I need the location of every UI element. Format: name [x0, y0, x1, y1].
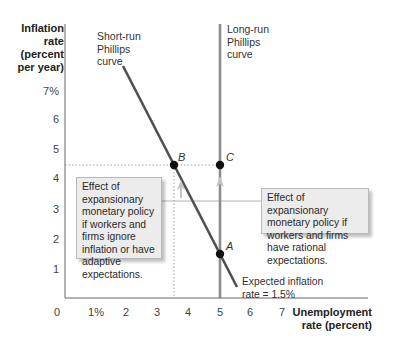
- x-tick-4: 4: [176, 306, 200, 318]
- x-axis-title-line: rate (percent): [290, 319, 372, 332]
- x-tick-5: 5: [208, 306, 232, 318]
- y-tick-5: 5: [39, 143, 59, 155]
- y-tick-6: 6: [39, 113, 59, 125]
- label-line: Long-run: [227, 23, 269, 36]
- y-tick-7: 7%: [39, 85, 59, 97]
- point-c-label: C: [226, 151, 234, 163]
- point-c: [216, 161, 224, 169]
- y-tick-1: 1: [39, 263, 59, 275]
- point-b-label: B: [178, 151, 185, 163]
- annotation-line: rate = 1.5%: [242, 289, 323, 302]
- annotation-line: Expected inflation: [242, 276, 323, 289]
- x-tick-6: 6: [238, 306, 262, 318]
- y-tick-2: 2: [39, 233, 59, 245]
- y-axis-title: Inflation rate (percent per year): [4, 22, 64, 74]
- y-tick-3: 3: [39, 203, 59, 215]
- expected-inflation-annotation: Expected inflation rate = 1.5%: [242, 276, 323, 301]
- y-axis-title-line: per year): [4, 61, 64, 74]
- y-tick-4: 4: [39, 172, 59, 184]
- label-line: curve: [227, 48, 269, 61]
- point-b: [170, 161, 178, 169]
- adaptive-expectations-note: Effect of expansionary monetary policy i…: [76, 177, 162, 259]
- x-tick-1: 1%: [84, 306, 108, 318]
- x-tick-2: 2: [114, 306, 138, 318]
- short-run-curve-label: Short-run Phillips curve: [97, 30, 141, 68]
- point-a: [216, 250, 224, 258]
- y-axis-title-line: (percent: [4, 48, 64, 61]
- x-tick-0: 0: [45, 306, 69, 318]
- y-axis-title-line: rate: [4, 35, 64, 48]
- x-axis-title: Unemployment rate (percent): [290, 306, 372, 332]
- point-a-label: A: [226, 240, 233, 252]
- label-line: Phillips: [97, 43, 141, 56]
- label-line: Short-run: [97, 30, 141, 43]
- label-line: Phillips: [227, 36, 269, 49]
- x-axis-title-line: Unemployment: [290, 306, 372, 319]
- rational-expectations-note: Effect of expansionary monetary policy i…: [261, 188, 369, 234]
- label-line: curve: [97, 55, 141, 68]
- x-tick-3: 3: [145, 306, 169, 318]
- long-run-curve-label: Long-run Phillips curve: [227, 23, 269, 61]
- y-axis-title-line: Inflation: [4, 22, 64, 35]
